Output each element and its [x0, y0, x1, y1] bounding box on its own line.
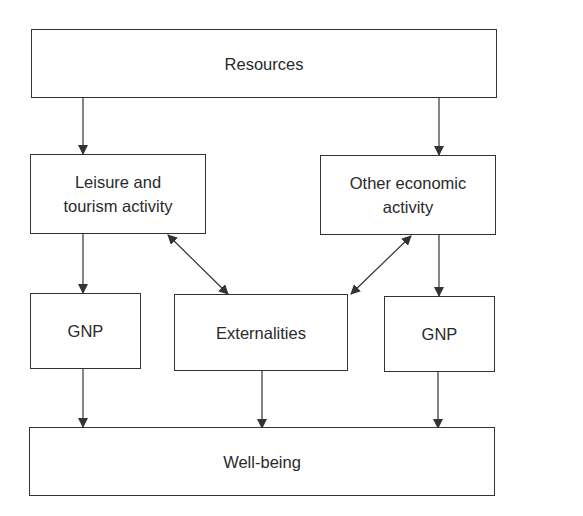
arrow-other-externalities-bidirectional — [351, 236, 411, 294]
wellbeing-box: Well-being — [29, 427, 495, 496]
leisure-label-line1: Leisure and — [75, 170, 161, 194]
gnp-right-label: GNP — [422, 322, 458, 346]
other-economic-box: Other economic activity — [320, 155, 496, 235]
other-label-line2: activity — [383, 195, 433, 219]
leisure-tourism-box: Leisure and tourism activity — [30, 154, 206, 234]
resources-label: Resources — [225, 52, 304, 76]
gnp-left-box: GNP — [30, 293, 141, 369]
other-label-line1: Other economic — [350, 171, 466, 195]
leisure-label-line2: tourism activity — [63, 194, 172, 218]
arrow-leisure-externalities-bidirectional — [168, 235, 228, 294]
externalities-box: Externalities — [174, 294, 348, 371]
gnp-right-box: GNP — [384, 296, 495, 372]
resources-box: Resources — [31, 29, 497, 98]
wellbeing-label: Well-being — [223, 450, 301, 474]
gnp-left-label: GNP — [68, 319, 104, 343]
externalities-label: Externalities — [216, 321, 306, 345]
